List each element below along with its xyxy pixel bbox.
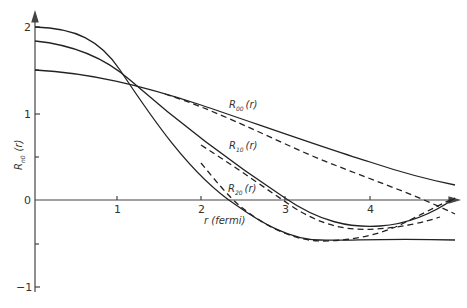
label-r10-main: R xyxy=(229,140,236,151)
y-axis-label-sub: n0 xyxy=(19,155,26,163)
curve-r00-approx xyxy=(165,94,455,214)
x-axis xyxy=(35,196,459,203)
y-axis-label: Rn0(r) xyxy=(13,140,26,171)
y-tick-neg1: −1 xyxy=(16,281,32,294)
label-r00: R00(r) xyxy=(229,99,258,112)
label-r20: R20(r) xyxy=(228,183,257,196)
y-axis xyxy=(32,12,40,292)
label-r20-sub: 20 xyxy=(235,189,243,196)
y-axis-arrow-icon xyxy=(32,12,38,22)
label-r10: R10(r) xyxy=(229,140,258,153)
y-tick-0: 0 xyxy=(24,194,31,207)
x-tick-3: 3 xyxy=(282,203,289,216)
y-axis-label-main: R xyxy=(13,163,24,170)
svg-text:Rn0(r): Rn0(r) xyxy=(13,140,26,171)
y-tick-1: 1 xyxy=(24,108,31,121)
label-r10-sub: 10 xyxy=(236,146,244,153)
y-axis-label-arg: (r) xyxy=(13,140,24,152)
curve-r20-approx xyxy=(201,163,455,241)
label-r00-main: R xyxy=(229,99,236,110)
radial-wavefunction-chart: 2 1 0 −1 1 2 3 4 r (fermi) Rn0(r) R00(r)… xyxy=(0,0,467,308)
label-r20-main: R xyxy=(228,183,235,194)
curve-r00 xyxy=(35,70,455,185)
label-r10-arg: (r) xyxy=(246,140,258,151)
x-tick-1: 1 xyxy=(114,203,121,216)
curve-r10 xyxy=(35,41,455,226)
x-axis-label: r (fermi) xyxy=(204,215,245,226)
label-r00-sub: 00 xyxy=(236,105,244,112)
y-tick-2: 2 xyxy=(24,21,31,34)
label-r20-arg: (r) xyxy=(245,183,257,194)
label-r00-arg: (r) xyxy=(246,99,258,110)
x-tick-4: 4 xyxy=(367,203,374,216)
